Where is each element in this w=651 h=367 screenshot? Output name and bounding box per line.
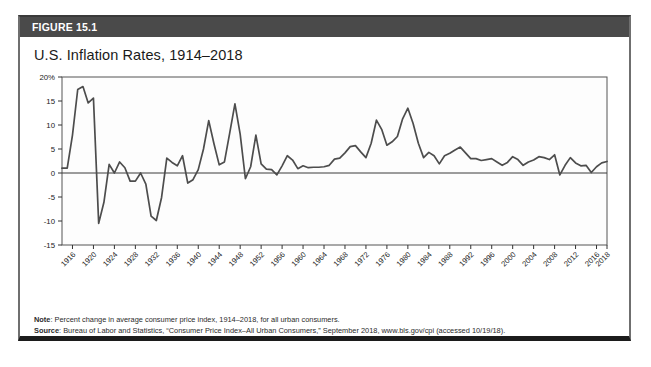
x-axis-label: 1948 <box>227 250 245 268</box>
y-axis-label: -5 <box>48 193 56 202</box>
x-axis-label: 1976 <box>373 250 391 268</box>
plot-area <box>62 77 607 245</box>
x-axis-label: 2004 <box>520 250 538 268</box>
source-line: Source: Bureau of Labor and Statistics, … <box>34 326 609 337</box>
chart-container: 20%151050-5-10-1519161920192419281932193… <box>20 71 625 301</box>
note-label: Note <box>34 315 50 324</box>
x-axis-label: 1936 <box>164 250 182 268</box>
x-axis-label: 1968 <box>332 250 350 268</box>
y-axis-label: 0 <box>51 169 56 178</box>
y-axis-label: 5 <box>51 145 56 154</box>
x-axis-label: 2008 <box>541 250 559 268</box>
inflation-line-chart: 20%151050-5-10-1519161920192419281932193… <box>20 71 625 301</box>
x-axis-label: 1992 <box>457 250 475 268</box>
note-line: Note: Percent change in average consumer… <box>34 315 609 326</box>
y-axis-label: 15 <box>46 97 55 106</box>
x-axis-label: 1996 <box>478 250 496 268</box>
y-axis-label: -15 <box>44 241 56 250</box>
y-axis-label: -10 <box>44 217 56 226</box>
x-axis-label: 1940 <box>185 250 203 268</box>
x-axis-label: 1944 <box>206 250 224 268</box>
page-title: U.S. Inflation Rates, 1914–2018 <box>34 47 629 63</box>
x-axis-label: 1988 <box>436 250 454 268</box>
figure-header-bar: FIGURE 15.1 <box>20 17 629 37</box>
x-axis-label: 1928 <box>122 250 140 268</box>
figure-label: FIGURE 15.1 <box>32 21 97 33</box>
x-axis-label: 1956 <box>269 250 287 268</box>
note-text: : Percent change in average consumer pri… <box>50 315 339 324</box>
x-axis-label: 1980 <box>394 250 412 268</box>
x-axis-label: 1920 <box>80 250 98 268</box>
y-axis-label: 20% <box>39 73 55 82</box>
x-axis-label: 1932 <box>143 250 161 268</box>
figure-notes: Note: Percent change in average consumer… <box>34 315 609 336</box>
x-axis-label: 2000 <box>499 250 517 268</box>
x-axis-label: 1924 <box>101 250 119 268</box>
source-label: Source <box>34 326 59 335</box>
x-axis-label: 1972 <box>353 250 371 268</box>
x-axis-label: 2012 <box>562 250 580 268</box>
x-axis-label: 1984 <box>415 250 433 268</box>
y-axis-label: 10 <box>46 121 55 130</box>
x-axis-label: 1916 <box>59 250 77 268</box>
x-axis-label: 1964 <box>311 250 329 268</box>
source-text: : Bureau of Labor and Statistics, “Consu… <box>59 326 505 335</box>
figure-card: FIGURE 15.1 U.S. Inflation Rates, 1914–2… <box>18 15 631 341</box>
x-axis-label: 1952 <box>248 250 266 268</box>
x-axis-label: 1960 <box>290 250 308 268</box>
